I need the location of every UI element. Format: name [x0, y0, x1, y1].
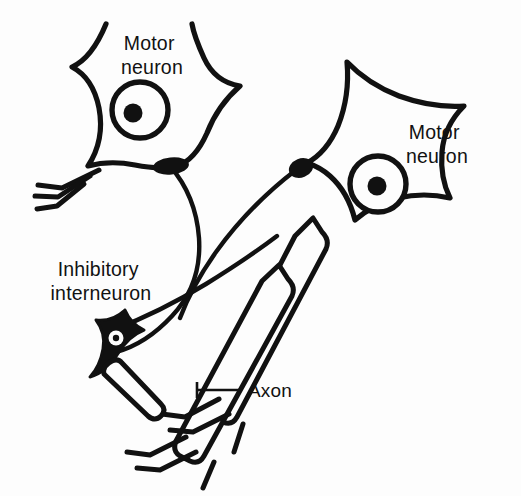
label-axon: Axon: [248, 380, 292, 401]
label-motor-neuron-right-line2: neuron: [406, 145, 468, 167]
diagram-canvas: Motor neuron Motor neuron Inhibitory int…: [0, 0, 521, 496]
label-motor-neuron-right-line1: Motor: [409, 121, 460, 143]
label-motor-neuron-left-line1: Motor: [124, 32, 175, 54]
label-motor-neuron-left-line2: neuron: [121, 56, 183, 78]
axon-terminal-branch-3: [203, 462, 214, 488]
label-inhibitory-interneuron-line1: Inhibitory: [58, 258, 139, 280]
right-motor-neuron-nucleolus: [368, 177, 387, 196]
inhibitory-interneuron: [90, 310, 164, 419]
inhibitory-interneuron-nucleolus: [113, 335, 119, 341]
label-inhibitory-interneuron-line2: interneuron: [51, 282, 152, 304]
label-inhibitory-interneuron: Inhibitory interneuron: [51, 258, 152, 304]
axon-terminal-branch-6: [234, 424, 243, 452]
axon-bundle: [127, 218, 327, 488]
inhibitory-interneuron-axon: [104, 360, 164, 419]
neural-circuit-figure: Motor neuron Motor neuron Inhibitory int…: [0, 0, 521, 496]
left-motor-neuron-nucleolus: [124, 104, 143, 123]
